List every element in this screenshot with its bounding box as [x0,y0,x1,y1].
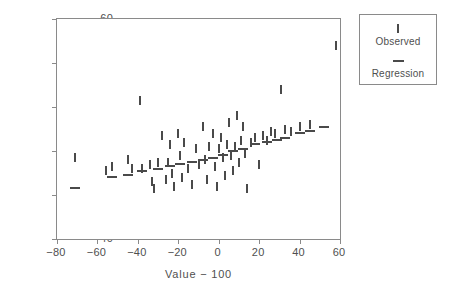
data-marker-regression [107,176,117,178]
data-marker-observed [280,85,282,94]
data-marker-regression [238,148,248,150]
data-marker-observed [290,127,292,136]
x-tick-label: −80 [34,246,78,258]
legend-swatch-regression-icon [360,55,436,66]
data-marker-observed [169,140,171,149]
data-marker-observed [270,127,272,136]
plot-area [56,18,341,240]
data-marker-observed [236,111,238,120]
data-marker-observed [165,175,167,184]
data-marker-observed [232,166,234,175]
data-markers-layer [57,19,340,239]
data-marker-observed [127,155,129,164]
data-marker-observed [224,171,226,180]
data-marker-observed [157,158,159,167]
legend: Observed Regression [359,14,437,85]
data-marker-regression [165,165,175,167]
data-marker-regression [218,154,228,156]
data-marker-regression [272,139,282,141]
x-tick-mark [219,239,220,244]
x-tick-label: −60 [74,246,118,258]
data-marker-observed [309,120,311,129]
data-marker-regression [280,137,290,139]
x-tick-mark [259,239,260,244]
data-marker-observed [274,129,276,138]
x-tick-label: 0 [196,246,240,258]
data-marker-observed [242,122,244,131]
data-marker-observed [183,138,185,147]
x-tick-label: 20 [236,246,280,258]
data-marker-observed [74,153,76,162]
x-tick-mark [178,239,179,244]
data-marker-observed [214,162,216,171]
data-marker-observed [226,140,228,149]
data-marker-observed [195,144,197,153]
data-marker-observed [149,160,151,169]
data-marker-observed [284,125,286,134]
data-marker-regression [228,150,238,152]
data-marker-observed [105,166,107,175]
legend-label-observed: Observed [360,36,436,47]
data-marker-regression [175,163,185,165]
data-marker-regression [198,159,208,161]
data-marker-observed [161,131,163,140]
data-marker-regression [305,130,315,132]
data-marker-regression [319,126,329,128]
data-marker-observed [228,118,230,127]
data-marker-regression [153,168,163,170]
x-tick-mark [97,239,98,244]
data-marker-observed [177,129,179,138]
data-marker-observed [153,184,155,193]
data-marker-observed [218,144,220,153]
data-marker-regression [187,161,197,163]
data-marker-regression [295,132,305,134]
data-marker-regression [123,174,133,176]
data-marker-observed [216,182,218,191]
data-marker-observed [240,136,242,145]
data-marker-regression [70,187,80,189]
x-tick-mark [57,239,58,244]
x-tick-mark [340,239,341,244]
data-marker-observed [187,164,189,173]
legend-swatch-observed-icon [360,23,436,34]
data-marker-regression [137,170,147,172]
legend-entry-regression: Regression [360,55,436,79]
data-marker-observed [335,41,337,50]
data-marker-observed [198,160,200,169]
data-marker-observed [238,158,240,167]
data-marker-regression [250,143,260,145]
legend-label-regression: Regression [360,68,436,79]
data-marker-observed [208,142,210,151]
x-tick-mark [138,239,139,244]
data-marker-observed [254,133,256,142]
data-marker-observed [206,175,208,184]
data-marker-observed [111,162,113,171]
legend-entry-observed: Observed [360,23,436,47]
data-marker-observed [202,122,204,131]
data-marker-observed [173,182,175,191]
x-tick-label: 40 [277,246,321,258]
data-marker-observed [131,164,133,173]
x-tick-mark [300,239,301,244]
data-marker-regression [262,141,272,143]
data-marker-observed [191,180,193,189]
data-marker-observed [262,131,264,140]
data-marker-observed [246,184,248,193]
data-marker-observed [181,173,183,182]
data-marker-observed [230,151,232,160]
data-marker-observed [244,149,246,158]
x-axis-title: Value − 100 [56,268,341,280]
data-marker-observed [220,133,222,142]
x-tick-label: −20 [155,246,199,258]
data-marker-observed [258,160,260,169]
scatter-plot-figure: −40−200204060 −80−60−40−200204060 Value … [0,0,462,301]
data-marker-observed [299,122,301,131]
data-marker-regression [208,157,218,159]
data-marker-observed [171,169,173,178]
x-tick-label: 60 [317,246,361,258]
data-marker-observed [179,151,181,160]
x-tick-label: −40 [115,246,159,258]
data-marker-observed [139,96,141,105]
data-marker-observed [212,129,214,138]
